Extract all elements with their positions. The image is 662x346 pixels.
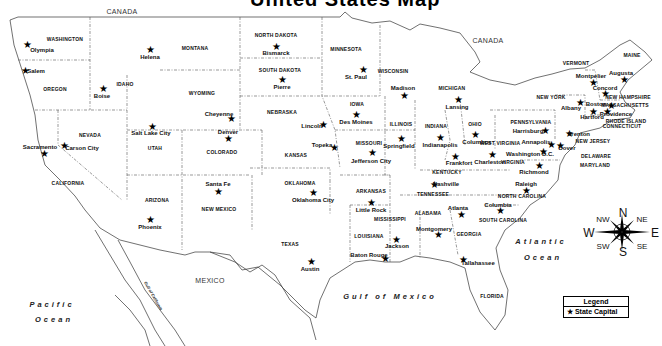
state-label: VERMONT: [563, 61, 589, 66]
capital-label: St. Paul: [345, 74, 367, 80]
state-label: NORTH DAKOTA: [255, 33, 298, 38]
country-label: CANADA: [473, 37, 504, 44]
capital-label: Jackson: [385, 243, 409, 249]
water-body-label: Atlantic: [515, 238, 567, 246]
capital-label: Des Moines: [339, 119, 372, 125]
water-body-label: Pacific: [29, 301, 74, 309]
state-label: CONNECTICUT: [603, 124, 642, 129]
state-label: ILLINOIS: [390, 122, 413, 127]
capital-label: Santa Fe: [205, 181, 230, 187]
capital-label: Trenton: [568, 131, 590, 137]
capital-label: Pierre: [273, 84, 290, 90]
state-label: CALIFORNIA: [52, 181, 85, 186]
state-label: MONTANA: [182, 46, 209, 51]
capital-label: Columbia: [484, 202, 511, 208]
capital-label: Washington D.C.: [506, 151, 554, 157]
state-label: MISSOURI: [356, 141, 382, 146]
state-label: KANSAS: [285, 153, 307, 158]
compass-direction-label: SE: [637, 242, 648, 251]
star-icon: ★: [567, 308, 573, 315]
state-label: KENTUCKY: [432, 170, 461, 175]
state-label: IOWA: [350, 102, 364, 107]
capital-star-icon: ★: [522, 186, 531, 196]
legend-title: Legend: [564, 297, 628, 307]
capital-label: Jefferson City: [351, 158, 391, 164]
state-label: FLORIDA: [480, 294, 504, 299]
capital-label: Cheyenne: [205, 111, 234, 117]
state-label: ARKANSAS: [356, 189, 386, 194]
capital-label: Albany: [561, 105, 581, 111]
capital-label: Little Rock: [356, 207, 387, 213]
state-label: UTAH: [148, 146, 162, 151]
state-label: NEVADA: [79, 133, 101, 138]
compass-direction-label: E: [651, 226, 659, 240]
capital-label: Phoenix: [138, 224, 161, 230]
capital-star-icon: ★: [620, 75, 629, 85]
capital-label: Concord: [593, 85, 618, 91]
state-label: NEW HAMPSHIRE: [605, 95, 651, 100]
country-label: CANADA: [107, 8, 138, 15]
capital-label: Carson City: [65, 145, 99, 151]
capital-label: Salt Lake City: [131, 130, 170, 136]
state-label: INDIANA: [425, 124, 447, 129]
country-label: MEXICO: [195, 277, 224, 284]
capital-label: Raleigh: [515, 181, 537, 187]
compass-direction-label: W: [583, 226, 594, 240]
state-label: ALABAMA: [415, 211, 442, 216]
state-label: WISCONSIN: [378, 69, 409, 74]
compass-direction-label: N: [619, 206, 628, 220]
legend-item-state-capital: ★ State Capital: [564, 307, 628, 317]
capital-label: Atlanta: [448, 205, 468, 211]
state-label: SOUTH CAROLINA: [479, 218, 527, 223]
capital-label: Tallahassee: [461, 260, 495, 266]
state-label: NEW YORK: [536, 95, 565, 100]
capital-label: Denver: [218, 129, 238, 135]
capital-label: Sacramento: [23, 144, 57, 150]
state-label: MICHIGAN: [439, 86, 466, 91]
capital-label: Oklahoma City: [292, 197, 334, 203]
us-capitals-map: United States Map: [0, 0, 662, 346]
capital-star-icon: ★: [40, 149, 49, 159]
capital-star-icon: ★: [457, 210, 466, 220]
state-label: MAINE: [623, 53, 640, 58]
capital-label: Nashville: [433, 181, 459, 187]
capital-star-icon: ★: [214, 187, 223, 197]
capital-star-icon: ★: [400, 91, 409, 101]
capital-label: Austin: [301, 266, 320, 272]
state-label: OHIO: [468, 122, 482, 127]
map-outline: [0, 0, 662, 346]
state-label: GEORGIA: [456, 232, 481, 237]
state-label: DELAWARE: [581, 154, 611, 159]
capital-label: Helena: [140, 54, 160, 60]
state-label: MARYLAND: [580, 163, 610, 168]
capital-label: Lansing: [445, 104, 468, 110]
capital-star-icon: ★: [368, 148, 377, 158]
capital-label: Montpelier: [576, 73, 606, 79]
water-body-label: Ocean: [35, 316, 73, 324]
capital-label: Baton Rouge: [350, 252, 387, 258]
compass-direction-label: S: [619, 245, 627, 259]
capital-label: Augusta: [609, 70, 633, 76]
water-body-label: Gulf of Mexico: [343, 293, 437, 301]
compass-direction-label: NE: [636, 215, 647, 224]
capital-label: Columbus: [462, 139, 491, 145]
capital-label: Richmond: [519, 169, 548, 175]
state-label: TEXAS: [281, 242, 299, 247]
state-label: MINNESOTA: [330, 47, 361, 52]
state-label: ARIZONA: [145, 198, 169, 203]
state-label: OREGON: [43, 87, 66, 92]
state-label: COLORADO: [207, 150, 238, 155]
legend-item-label: State Capital: [575, 308, 617, 315]
capital-label: Frankfort: [446, 160, 472, 166]
capital-label: Bismarck: [262, 50, 289, 56]
capital-label: Salem: [27, 68, 45, 74]
capital-star-icon: ★: [224, 134, 233, 144]
capital-label: Annapolis: [521, 139, 550, 145]
capital-label: Topeka: [312, 142, 333, 148]
state-label: SOUTH DAKOTA: [259, 68, 301, 73]
state-label: IDAHO: [116, 82, 133, 87]
state-label: OKLAHOMA: [284, 181, 315, 186]
map-legend: Legend ★ State Capital: [563, 296, 629, 318]
state-label: WYOMING: [189, 91, 215, 96]
capital-label: Charleston: [474, 159, 505, 165]
